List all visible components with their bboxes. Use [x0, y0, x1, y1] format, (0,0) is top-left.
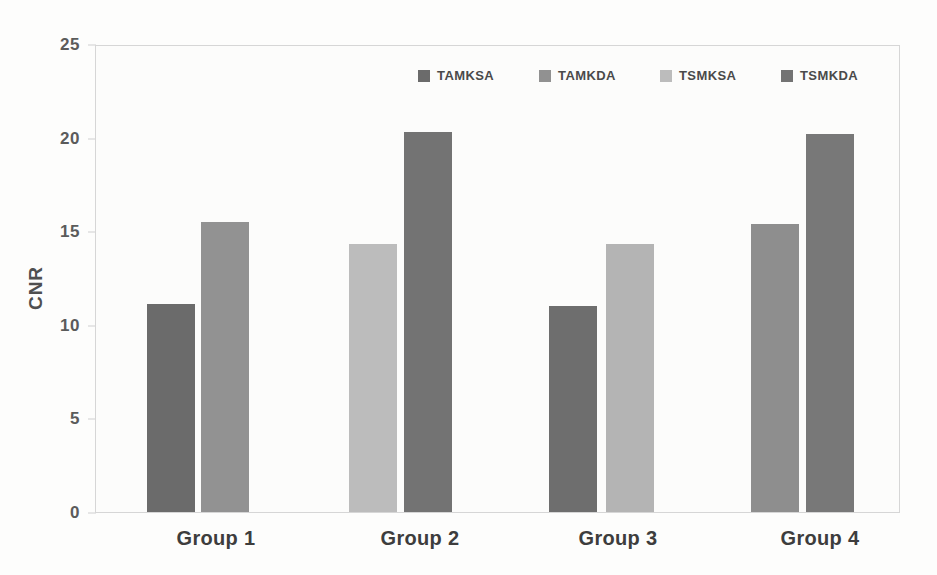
- bar-group-2-tsmksa: [349, 244, 397, 512]
- bar-group-4-tamkda: [751, 224, 799, 512]
- legend-label: TSMKSA: [679, 68, 736, 83]
- y-tick-label: 25: [40, 35, 80, 55]
- chart-figure: CNR 0510152025 Group 1Group 2Group 3Grou…: [0, 0, 937, 575]
- legend-entry-tsmkda[interactable]: TSMKDA: [781, 68, 858, 83]
- x-group-label: Group 1: [177, 527, 256, 550]
- bar-group-1-tamksa: [147, 304, 195, 512]
- bar-group-3-tsmksa: [606, 244, 654, 512]
- bar-group-2-tsmkda: [404, 132, 452, 512]
- y-tick-label: 15: [40, 222, 80, 242]
- legend-swatch-icon: [418, 70, 430, 82]
- bar-group-1-tamkda: [201, 222, 249, 512]
- y-tick-label: 0: [40, 503, 80, 523]
- bar-group-3-tamksa: [549, 306, 597, 512]
- y-tick-label: 5: [40, 409, 80, 429]
- y-axis-title: CNR: [25, 265, 47, 309]
- x-group-label: Group 3: [579, 527, 658, 550]
- x-group-label: Group 2: [381, 527, 460, 550]
- legend-entry-tamksa[interactable]: TAMKSA: [418, 68, 494, 83]
- y-tick-label: 10: [40, 316, 80, 336]
- y-tick-label: 20: [40, 129, 80, 149]
- x-group-label: Group 4: [781, 527, 860, 550]
- legend-swatch-icon: [660, 70, 672, 82]
- legend-label: TAMKDA: [558, 68, 616, 83]
- legend-swatch-icon: [539, 70, 551, 82]
- legend-label: TAMKSA: [437, 68, 494, 83]
- plot-area: [95, 45, 900, 513]
- legend-swatch-icon: [781, 70, 793, 82]
- legend-entry-tsmksa[interactable]: TSMKSA: [660, 68, 736, 83]
- bar-group-4-tsmkda: [806, 134, 854, 512]
- legend-entry-tamkda[interactable]: TAMKDA: [539, 68, 616, 83]
- legend-label: TSMKDA: [800, 68, 858, 83]
